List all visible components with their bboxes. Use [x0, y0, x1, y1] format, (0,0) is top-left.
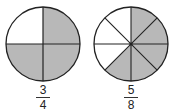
numerator: 3	[33, 84, 53, 96]
fraction-circles	[0, 0, 172, 111]
fraction-label-five-eighths: 5 8	[121, 84, 141, 111]
circle-three-quarters	[6, 7, 80, 81]
numerator: 5	[121, 84, 141, 96]
denominator: 4	[33, 99, 53, 111]
fraction-label-three-quarters: 3 4	[33, 84, 53, 111]
denominator: 8	[121, 99, 141, 111]
circle-five-eighths	[94, 7, 168, 81]
